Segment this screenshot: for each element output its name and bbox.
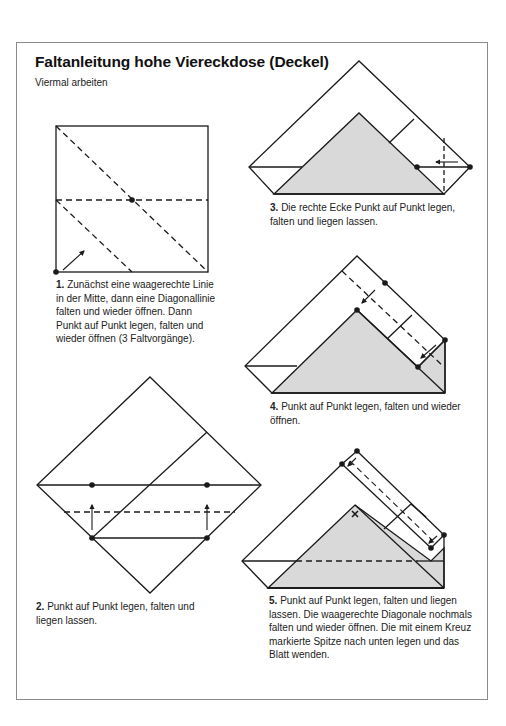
dot-marker-icon: [415, 364, 421, 370]
dot-marker-icon: [414, 164, 420, 170]
dot-marker-icon: [467, 164, 473, 170]
step-2-caption: 2. Punkt auf Punkt legen, falten und lie…: [36, 600, 196, 627]
arrow-icon: [63, 251, 84, 270]
step-text: Die rechte Ecke Punkt auf Punkt legen, f…: [270, 202, 455, 227]
dot-marker-icon: [89, 482, 95, 488]
dot-marker-icon: [382, 280, 388, 286]
dot-marker-icon: [129, 197, 135, 203]
dot-marker-icon: [53, 269, 59, 275]
dot-marker-icon: [442, 337, 448, 343]
step-number: 4.: [270, 401, 278, 412]
diagram-step-5: [242, 448, 447, 588]
dot-marker-icon: [354, 307, 360, 313]
step-5-caption: 5. Punkt auf Punkt legen, falten und lie…: [269, 594, 474, 662]
diagram-step-4: [245, 256, 448, 393]
step-text: Punkt auf Punkt legen, falten und liegen…: [269, 595, 472, 660]
step-text: Zunächst eine waagerechte Linie in der M…: [56, 279, 215, 344]
step-number: 1.: [56, 279, 64, 290]
dot-marker-icon: [204, 535, 210, 541]
step-text: Punkt auf Punkt legen, falten und liegen…: [36, 601, 194, 626]
dot-marker-icon: [204, 482, 210, 488]
dot-marker-icon: [89, 535, 95, 541]
diagram-step-3: [249, 61, 473, 194]
diagram-step-1: [53, 126, 208, 275]
step-4-caption: 4. Punkt auf Punkt legen, falten und wie…: [270, 400, 470, 427]
dot-marker-icon: [428, 545, 434, 551]
diagram-step-2: [37, 377, 261, 593]
step-3-caption: 3. Die rechte Ecke Punkt auf Punkt legen…: [270, 201, 470, 228]
dot-marker-icon: [441, 532, 447, 538]
dot-marker-icon: [339, 461, 345, 467]
step-number: 2.: [36, 601, 44, 612]
step-1-caption: 1. Zunächst eine waagerechte Linie in de…: [56, 278, 216, 346]
step-number: 3.: [270, 202, 278, 213]
step-number: 5.: [269, 595, 277, 606]
arrow-icon: [348, 458, 356, 466]
dot-marker-icon: [354, 448, 360, 454]
step-text: Punkt auf Punkt legen, falten und wieder…: [270, 401, 461, 426]
arrow-icon: [429, 536, 437, 543]
